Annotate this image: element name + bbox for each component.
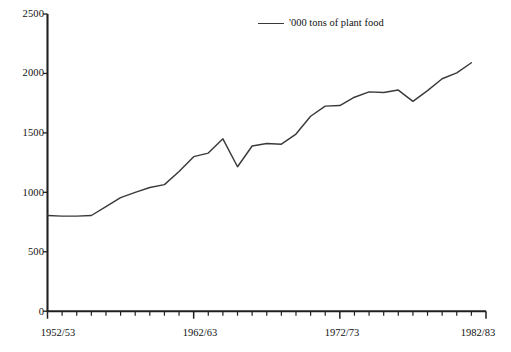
chart-plot-area	[0, 0, 511, 352]
x-axis-ticks	[48, 311, 487, 319]
series-line-plant-food	[48, 63, 472, 216]
figure-caption	[0, 344, 511, 352]
axis-lines	[47, 14, 486, 312]
chart-figure: 2500 2000 1500 1000 500 0 1952/53 1962/6…	[0, 0, 511, 352]
